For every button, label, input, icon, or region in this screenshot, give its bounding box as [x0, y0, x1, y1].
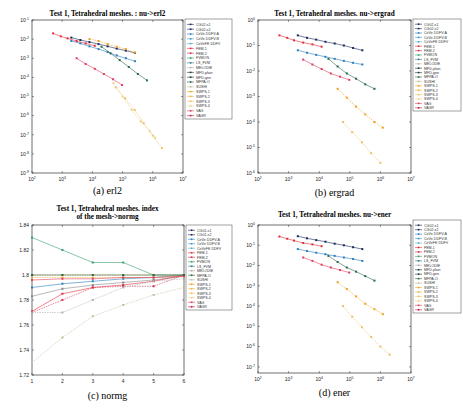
data-point [306, 52, 308, 54]
data-point [364, 113, 366, 115]
tick-label: 1.8 [22, 272, 29, 278]
plot-area [258, 225, 411, 373]
data-point [122, 282, 124, 284]
data-point [94, 45, 96, 47]
tick-label: 10-6 [246, 170, 255, 176]
data-point [31, 312, 33, 314]
data-point [31, 295, 33, 297]
data-point [315, 39, 317, 41]
legend-item: SWPS-4 [196, 104, 210, 108]
tick-label: 6 [183, 378, 186, 384]
data-point [107, 45, 109, 47]
caption-c: (c) normg [30, 390, 185, 401]
tick-label: 10-4 [246, 303, 255, 309]
data-point [31, 287, 33, 289]
data-point [293, 240, 295, 242]
data-point [134, 60, 136, 62]
tick-label: 106 [149, 176, 157, 182]
plot-area [32, 225, 184, 375]
data-point [61, 312, 63, 314]
data-point [153, 277, 155, 279]
tick-label: 10-7 [246, 364, 255, 370]
legend-item: FVMON [424, 53, 437, 57]
data-point [92, 274, 94, 276]
data-point [348, 79, 350, 81]
data-point [334, 243, 336, 245]
legend-item: SWPS-3 [424, 93, 438, 97]
legend-item: CG02-s2 [196, 28, 210, 32]
legend-item: FEM-1 [197, 251, 208, 255]
panel-c: Test 1, Tetrahedral meshes. index of the… [0, 205, 232, 415]
tick-label: 10-5 [246, 323, 255, 329]
data-point [321, 245, 323, 247]
data-point [339, 76, 341, 78]
data-point [315, 239, 317, 241]
tick-label: 105 [119, 176, 127, 182]
data-point [52, 32, 54, 34]
tick-label: 10-1 [20, 17, 29, 23]
data-point [355, 106, 357, 108]
tick-label: 1.72 [19, 372, 29, 378]
legend-item: VAGR [424, 308, 434, 312]
tick-label: 102 [254, 376, 262, 382]
tick-label: 3 [91, 378, 94, 384]
data-point [373, 280, 375, 282]
legend-item: FVMON [196, 56, 209, 60]
data-point [343, 256, 345, 258]
data-point [183, 278, 185, 280]
data-point [70, 37, 72, 39]
data-point [352, 47, 354, 49]
legend-item: SWPS-4 [424, 97, 438, 101]
tick-label: 10-6 [246, 343, 255, 349]
legend-item: MFD-gen [424, 272, 439, 276]
data-point [61, 274, 63, 276]
legend: CG01-s1CG01-s2CeVe DDFV-ACeVe DDFV-BCeVe… [186, 225, 232, 310]
data-point [134, 51, 136, 53]
data-point [146, 79, 148, 81]
legend-item: MELODIE [196, 66, 213, 70]
data-point [137, 73, 139, 75]
legend-item: CG01-s1 [197, 229, 211, 233]
data-point [364, 303, 366, 305]
data-point [346, 97, 348, 99]
chart-b: 10210310410510610710010-110-210-310-410-… [232, 0, 463, 205]
data-point [379, 162, 381, 164]
data-point [31, 362, 33, 364]
data-point [79, 42, 81, 44]
data-point [334, 255, 336, 257]
data-point [125, 48, 127, 50]
panel-d: Test 1, Tetrahedral meshes. nu->ener 102… [232, 205, 463, 415]
tick-label: 4 [122, 378, 125, 384]
legend-item: FEM-1 [196, 47, 207, 51]
data-point [373, 121, 375, 123]
data-point [286, 37, 288, 39]
data-point [70, 40, 72, 42]
legend-item: FEM-2 [196, 52, 207, 56]
tick-label: 1.78 [19, 297, 29, 303]
legend: CG02-s1CG02-s2CeVe DDFV-ACeVe DDFV-BCeVe… [413, 220, 461, 313]
legend-item: FEM-2 [424, 49, 435, 53]
panel-b: Test 1, Tetrahedral meshes. nu->ergrad 1… [232, 0, 463, 205]
tick-label: 104 [315, 176, 323, 182]
tick-label: 107 [407, 176, 415, 182]
data-point [61, 337, 63, 339]
tick-label: 105 [346, 376, 354, 382]
data-point [88, 41, 90, 43]
legend-item: CeVeFE DDFV [424, 40, 449, 44]
data-point [351, 316, 353, 318]
data-point [315, 54, 317, 56]
legend-item: CeVe DDFV-B [196, 37, 220, 41]
legend-item: CG02-s1 [424, 23, 438, 27]
data-point [364, 83, 366, 85]
data-point [330, 72, 332, 74]
data-point [361, 326, 363, 328]
data-point [88, 38, 90, 40]
data-point [343, 45, 345, 47]
legend-item: MFPA-O [197, 274, 211, 278]
legend-item: VAG [424, 304, 432, 308]
legend-item: SWPS-3 [197, 292, 211, 296]
data-point [92, 299, 94, 301]
data-point [61, 299, 63, 301]
legend-item: CG02-s2 [424, 27, 438, 31]
tick-label: 10-3 [246, 283, 255, 289]
